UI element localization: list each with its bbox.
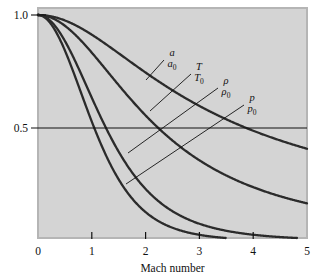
x-axis-tick-label: 4	[250, 245, 256, 257]
isentropic-flow-chart: 0123450.51.0 aa0TT0ρρ0pp0 Mach number	[0, 0, 325, 278]
chart-figure: 0123450.51.0 aa0TT0ρρ0pp0 Mach number	[0, 0, 325, 278]
y-axis-tick-label: 1.0	[14, 9, 29, 21]
x-axis-tick-label: 3	[197, 245, 203, 257]
curve-label-numerator-rho-rho0: ρ	[222, 75, 228, 86]
curve-label-numerator-a-a0: a	[169, 47, 174, 58]
x-axis-tick-label: 0	[35, 245, 41, 257]
x-axis-tick-label: 1	[89, 245, 95, 257]
x-axis-tick-label: 5	[304, 245, 310, 257]
x-axis-title: Mach number	[140, 262, 204, 274]
curve-label-numerator-p-p0: p	[248, 92, 254, 103]
x-axis-tick-label: 2	[143, 245, 149, 257]
y-axis-tick-label: 0.5	[14, 122, 29, 134]
axis-labels-layer: Mach number	[140, 262, 204, 274]
plot-background	[38, 8, 307, 238]
